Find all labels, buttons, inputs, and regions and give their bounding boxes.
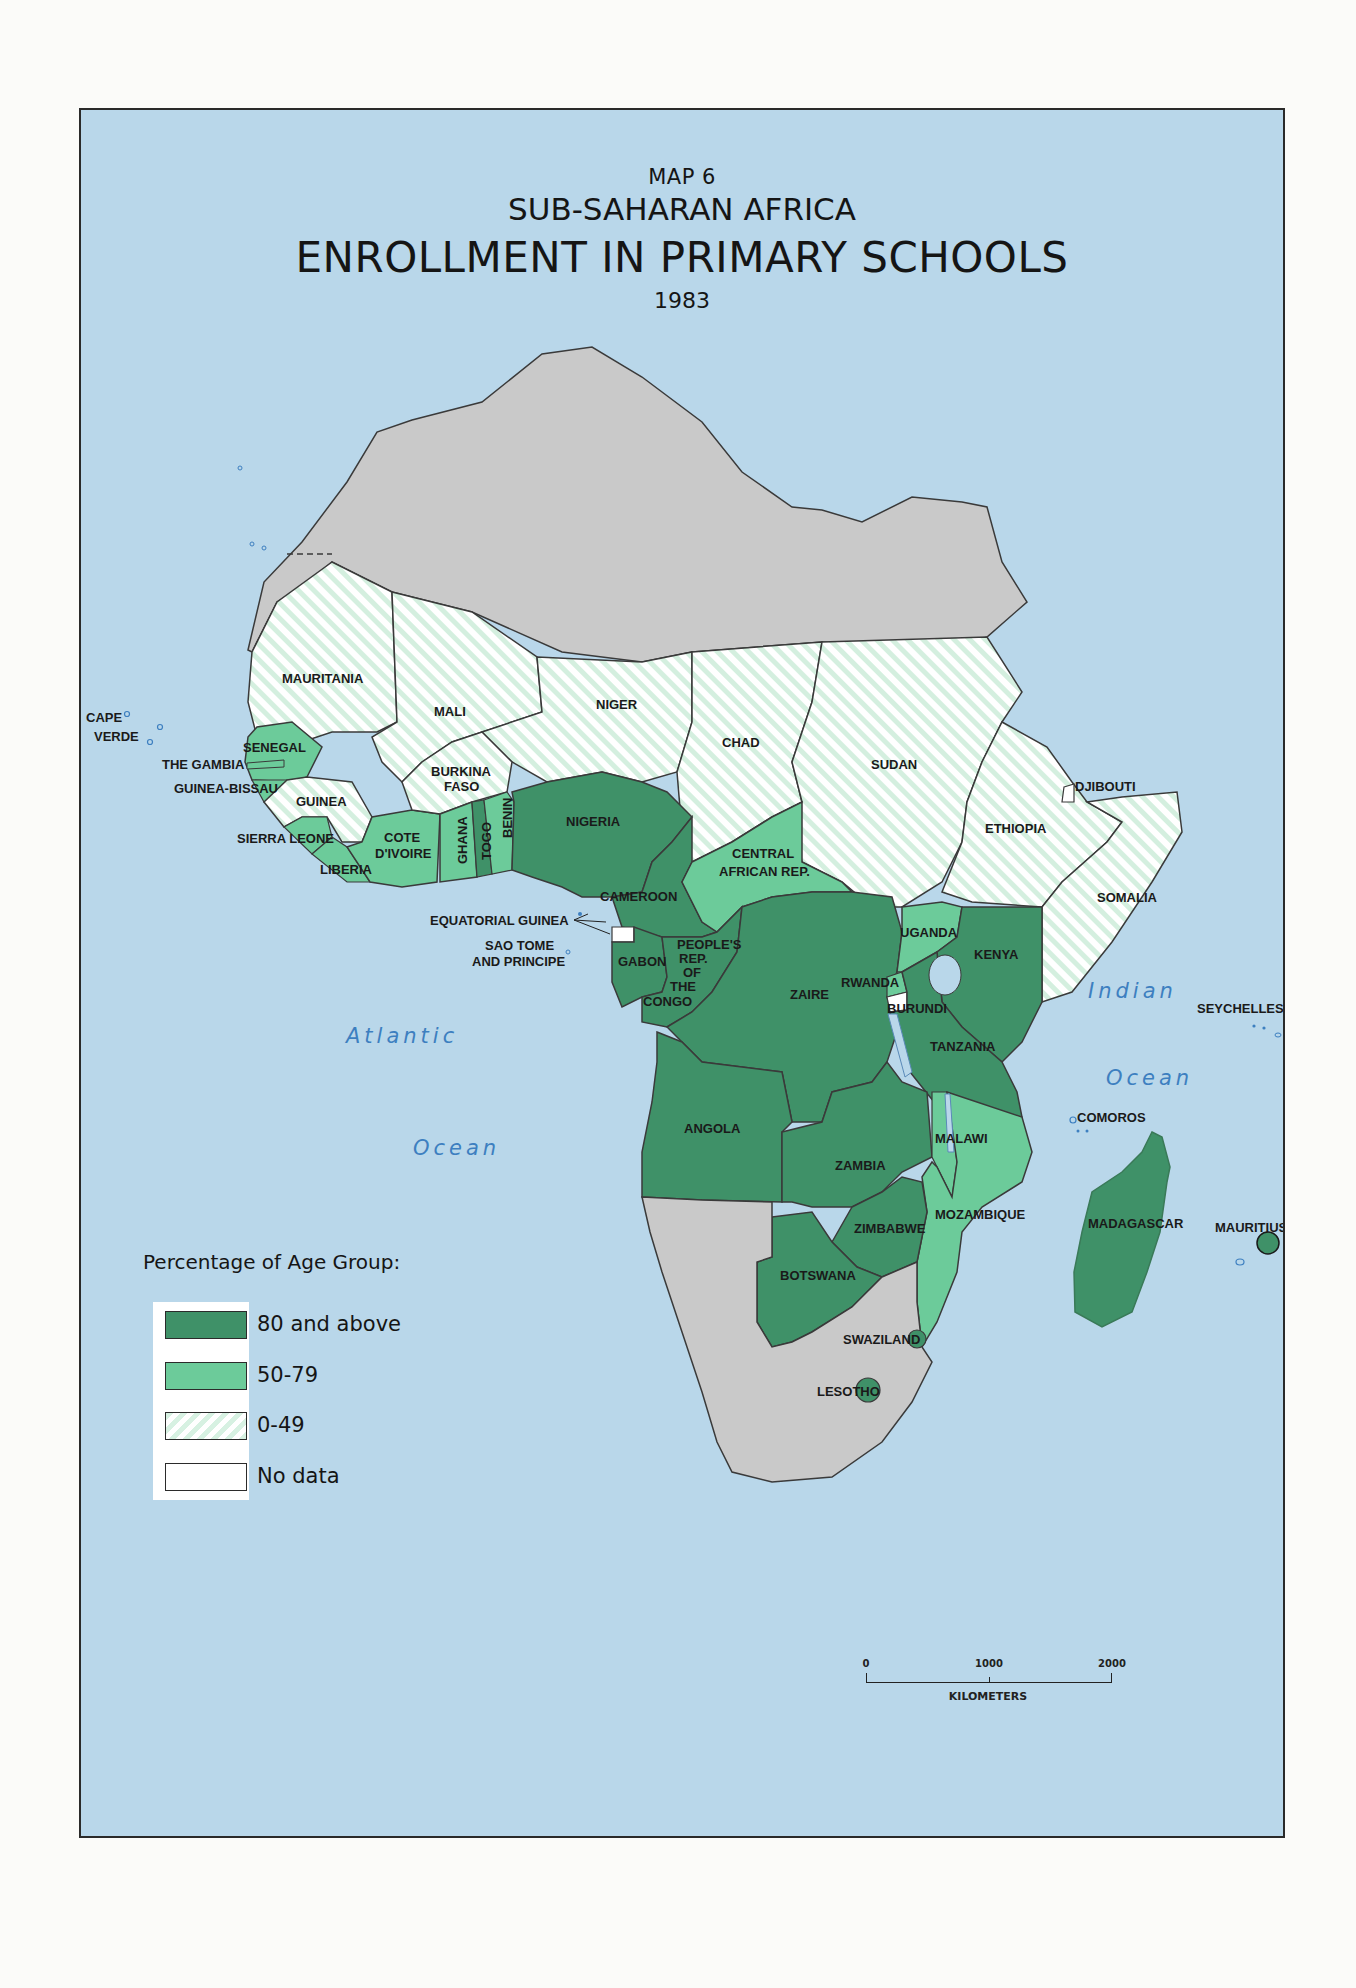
label-congo-4: THE	[670, 979, 696, 994]
label-congo-1: PEOPLE'S	[677, 937, 742, 952]
label-cape-verde-1: CAPE	[86, 710, 122, 725]
swatch-0-49	[165, 1412, 247, 1440]
scale-tick-1000: 1000	[975, 1658, 1003, 1669]
label-niger: NIGER	[596, 697, 638, 712]
label-congo-2: REP.	[679, 951, 708, 966]
label-sao-tome-2: AND PRINCIPE	[472, 954, 566, 969]
island-reunion	[1236, 1259, 1244, 1265]
label-cameroon: CAMEROON	[600, 889, 677, 904]
islands-seychelles-2	[1262, 1026, 1265, 1029]
label-senegal: SENEGAL	[243, 740, 306, 755]
islands-cape-verde-2	[158, 725, 163, 730]
region-djibouti	[1062, 784, 1074, 802]
islands-comoros-3	[1086, 1130, 1089, 1133]
africa-map: MAURITANIA MALI NIGER CHAD SUDAN ETHIOPI…	[81, 110, 1285, 1838]
islands-canary	[238, 466, 242, 470]
label-mauritius: MAURITIUS	[1215, 1220, 1285, 1235]
region-mauritius	[1257, 1232, 1279, 1254]
legend-item-80-plus	[165, 1310, 247, 1340]
swatch-no-data	[165, 1463, 247, 1491]
legend-label-no-data: No data	[257, 1464, 340, 1488]
swatch-50-79	[165, 1362, 247, 1390]
label-zaire: ZAIRE	[790, 987, 829, 1002]
label-liberia: LIBERIA	[320, 862, 373, 877]
label-mozambique: MOZAMBIQUE	[935, 1207, 1026, 1222]
islands-sao-tome-2	[566, 950, 570, 954]
scale-unit: KILOMETERS	[949, 1690, 1027, 1703]
label-madagascar: MADAGASCAR	[1088, 1216, 1184, 1231]
label-zimbabwe: ZIMBABWE	[854, 1221, 926, 1236]
label-sudan: SUDAN	[871, 757, 917, 772]
map-frame: MAURITANIA MALI NIGER CHAD SUDAN ETHIOPI…	[79, 108, 1285, 1838]
label-ghana: GHANA	[455, 816, 470, 864]
label-ethiopia: ETHIOPIA	[985, 821, 1047, 836]
map-region: SUB-SAHARAN AFRICA	[81, 191, 1283, 227]
label-djibouti: DJIBOUTI	[1075, 779, 1136, 794]
label-burkina-2: FASO	[444, 779, 479, 794]
islands-comoros	[1070, 1117, 1076, 1123]
label-car-1: CENTRAL	[732, 846, 794, 861]
islands-canary-2	[250, 542, 254, 546]
label-rwanda: RWANDA	[841, 975, 900, 990]
islands-comoros-2	[1077, 1130, 1080, 1133]
label-mali: MALI	[434, 704, 466, 719]
label-chad: CHAD	[722, 735, 760, 750]
islands-cape-verde-3	[148, 740, 153, 745]
legend-label-80-plus: 80 and above	[257, 1312, 401, 1336]
label-comoros: COMOROS	[1077, 1110, 1146, 1125]
title-block: MAP 6 SUB-SAHARAN AFRICA ENROLLMENT IN P…	[81, 165, 1283, 313]
label-lesotho: LESOTHO	[817, 1384, 880, 1399]
label-congo-3: OF	[683, 965, 701, 980]
label-seychelles: SEYCHELLES	[1197, 1001, 1284, 1016]
label-kenya: KENYA	[974, 947, 1019, 962]
label-car-2: AFRICAN REP.	[719, 864, 810, 879]
label-cote-2: D'IVOIRE	[375, 846, 432, 861]
islands-sao-tome	[578, 912, 582, 916]
label-somalia: SOMALIA	[1097, 890, 1158, 905]
label-atlantic-ocean: Ocean	[413, 1136, 500, 1160]
map-title: ENROLLMENT IN PRIMARY SCHOOLS	[81, 233, 1283, 282]
islands-seychelles	[1252, 1024, 1255, 1027]
label-sierra-leone: SIERRA LEONE	[237, 831, 334, 846]
label-guinea: GUINEA	[296, 794, 347, 809]
label-sao-tome-1: SAO TOME	[485, 938, 554, 953]
label-angola: ANGOLA	[684, 1121, 741, 1136]
swatch-80-plus	[165, 1311, 247, 1339]
legend-label-0-49: 0-49	[257, 1413, 305, 1437]
legend-title: Percentage of Age Group:	[143, 1250, 400, 1274]
label-tanzania: TANZANIA	[930, 1039, 996, 1054]
label-cape-verde-2: VERDE	[94, 729, 139, 744]
label-benin: BENIN	[500, 798, 515, 838]
label-burkina-1: BURKINA	[431, 764, 492, 779]
scale-line	[866, 1682, 1112, 1683]
label-burundi: BURUNDI	[887, 1001, 947, 1016]
label-gabon: GABON	[618, 954, 666, 969]
label-nigeria: NIGERIA	[566, 814, 621, 829]
region-equatorial-guinea	[612, 927, 634, 942]
label-gambia: THE GAMBIA	[162, 757, 245, 772]
legend-label-50-79: 50-79	[257, 1363, 318, 1387]
legend-item-50-79	[165, 1361, 247, 1391]
label-cote-1: COTE	[384, 830, 420, 845]
scale-tick-2000: 2000	[1098, 1658, 1126, 1669]
label-swaziland: SWAZILAND	[843, 1332, 920, 1347]
map-year: 1983	[81, 288, 1283, 313]
label-equatorial-guinea: EQUATORIAL GUINEA	[430, 913, 569, 928]
label-zambia: ZAMBIA	[835, 1158, 886, 1173]
legend-item-no-data	[165, 1462, 247, 1492]
scale-bar: 0 1000 2000 KILOMETERS	[860, 1658, 1120, 1718]
scale-tick-0: 0	[863, 1658, 870, 1669]
islands-seychelles-3	[1275, 1033, 1281, 1037]
label-atlantic: Atlantic	[344, 1024, 458, 1048]
label-indian: Indian	[1088, 979, 1177, 1003]
label-indian-ocean: Ocean	[1106, 1066, 1193, 1090]
label-guinea-bissau: GUINEA-BISSAU	[174, 781, 278, 796]
label-togo: TOGO	[479, 822, 494, 860]
label-mauritania: MAURITANIA	[282, 671, 364, 686]
islands-canary-3	[262, 546, 266, 550]
label-malawi: MALAWI	[935, 1131, 988, 1146]
label-botswana: BOTSWANA	[780, 1268, 856, 1283]
map-number: MAP 6	[81, 165, 1283, 189]
label-congo-5: CONGO	[643, 994, 692, 1009]
lake-victoria	[929, 955, 961, 995]
